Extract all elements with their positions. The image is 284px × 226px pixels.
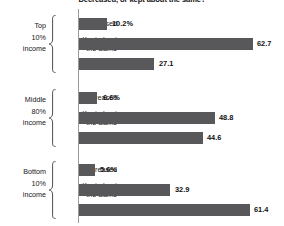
bar-value-label: 61.4 — [254, 205, 268, 214]
bar — [79, 184, 170, 196]
bar-value-label: 48.8 — [219, 113, 233, 122]
bar-chart: Decreased, or kept about the same? Top 1… — [0, 0, 284, 226]
chart-group-top: Top 10% income Decreased 10.2% Kept abou… — [0, 14, 284, 74]
bar — [79, 132, 203, 144]
bar-value-label: 44.6 — [207, 133, 221, 142]
chart-row: Increased 61.4 — [0, 200, 284, 220]
bar — [79, 112, 215, 124]
chart-row: Increased 44.6 — [0, 128, 284, 148]
chart-row: Decreased 5.6% — [0, 160, 284, 180]
bar — [79, 38, 253, 50]
chart-group-bottom: Bottom 10% income Decreased 5.6% Kept ab… — [0, 160, 284, 220]
bar — [79, 92, 97, 104]
bar-value-label: 32.9 — [175, 185, 189, 194]
chart-row: Increased 27.1 — [0, 54, 284, 74]
chart-row: Kept about the Same 32.9 — [0, 180, 284, 200]
bar — [79, 18, 107, 30]
chart-title: Decreased, or kept about the same? — [0, 0, 284, 4]
chart-row: Decreased 6.6% — [0, 88, 284, 108]
chart-row: Kept about the Same 62.7 — [0, 34, 284, 54]
bar-value-label: 10.2% — [112, 19, 133, 28]
bar — [79, 164, 95, 176]
bar-value-label: 5.6% — [100, 165, 117, 174]
chart-row: Kept about the Same 48.8 — [0, 108, 284, 128]
bar-value-label: 62.7 — [257, 39, 271, 48]
bar — [79, 204, 250, 216]
chart-group-middle: Middle 80% income Decreased 6.6% Kept ab… — [0, 88, 284, 148]
bar-value-label: 6.6% — [103, 93, 120, 102]
bar-value-label: 27.1 — [159, 59, 173, 68]
chart-row: Decreased 10.2% — [0, 14, 284, 34]
bar — [79, 58, 154, 70]
